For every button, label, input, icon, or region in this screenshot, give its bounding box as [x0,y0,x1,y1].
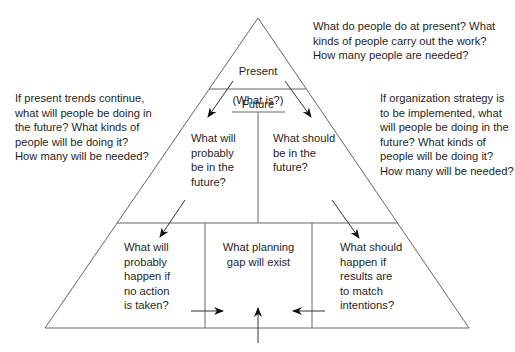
side-note-left: If present trends continue, what will pe… [15,91,175,164]
future-title: Future [228,97,288,112]
arrow-probable-to-no-action [160,200,185,237]
side-note-right: If organization strategy is to be implem… [380,91,515,179]
base-planning-gap-text: What planning gap will exist [210,240,307,269]
arrow-should-to-intentions [332,200,359,238]
base-no-action-text: What will probably happen if no action i… [124,240,199,313]
base-intentions-text: What should happen if results are to mat… [340,240,425,313]
present-title: Present [239,65,278,77]
present-question: What do people do at present? What kinds… [313,19,513,63]
future-should-text: What should be in the future? [273,131,353,175]
future-probable-text: What will probably be in the future? [191,131,257,189]
